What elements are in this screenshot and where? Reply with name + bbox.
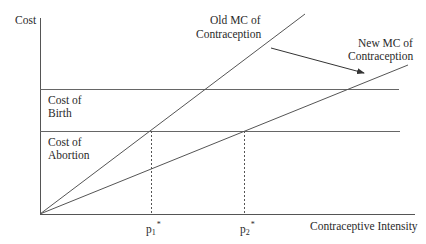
p2-subscript: 2 — [246, 228, 250, 237]
p1-superscript: * — [157, 220, 161, 229]
p2-superscript: * — [251, 220, 255, 229]
new-mc-label-line2: Contraception — [348, 49, 413, 63]
new-mc-line — [40, 65, 408, 214]
old-mc-label-line2: Contraception — [196, 27, 261, 41]
p1-star-label: p1* — [146, 218, 161, 240]
new-mc-label-line1: New MC of — [358, 36, 413, 50]
y-axis-label: Cost — [15, 13, 36, 27]
cost-of-abortion-label-line1: Cost of — [48, 135, 82, 149]
p1-subscript: 1 — [152, 228, 156, 237]
old-mc-line — [40, 14, 305, 214]
cost-of-abortion-label-line2: Abortion — [48, 148, 90, 162]
p2-star-label: p2* — [240, 218, 255, 240]
cost-of-birth-label-line2: Birth — [48, 106, 72, 120]
cost-of-birth-label-line1: Cost of — [48, 93, 82, 107]
old-mc-label-line1: Old MC of — [210, 13, 260, 27]
x-axis-label: Contraceptive Intensity — [310, 219, 418, 233]
